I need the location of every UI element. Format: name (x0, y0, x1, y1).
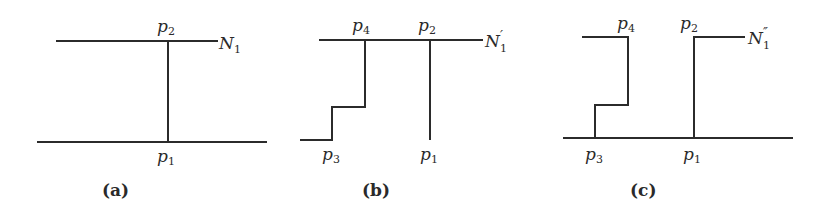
net-label-n1-prime: N1′ (484, 28, 507, 55)
pin-label-p3: p3 (585, 144, 603, 166)
stepped-route (582, 37, 628, 138)
pin-label-p2: p2 (418, 15, 436, 37)
pin-label-p2: p2 (157, 16, 175, 38)
routing-diagram: p2 p1 N1 (a) p4 p2 p3 p1 N1′ (b) p4 p2 p… (0, 0, 825, 217)
pin-label-p3: p3 (322, 144, 340, 166)
vertical-connection (694, 37, 745, 138)
caption-c: (c) (630, 180, 656, 200)
panel-c: p4 p2 p3 p1 N1″ (c) (563, 13, 793, 200)
pin-label-p4: p4 (352, 15, 370, 37)
net-label-n1: N1 (218, 33, 241, 56)
pin-label-p1: p1 (420, 144, 438, 166)
stepped-route (300, 40, 365, 140)
net-label-n1-double-prime: N1″ (747, 25, 770, 52)
caption-a: (a) (102, 180, 129, 200)
pin-label-p1: p1 (157, 146, 175, 168)
pin-label-p1: p1 (683, 144, 701, 166)
pin-label-p2: p2 (680, 13, 698, 35)
pin-label-p4: p4 (617, 13, 635, 35)
caption-b: (b) (362, 180, 390, 200)
panel-a: p2 p1 N1 (a) (37, 16, 267, 200)
panel-b: p4 p2 p3 p1 N1′ (b) (300, 15, 507, 200)
